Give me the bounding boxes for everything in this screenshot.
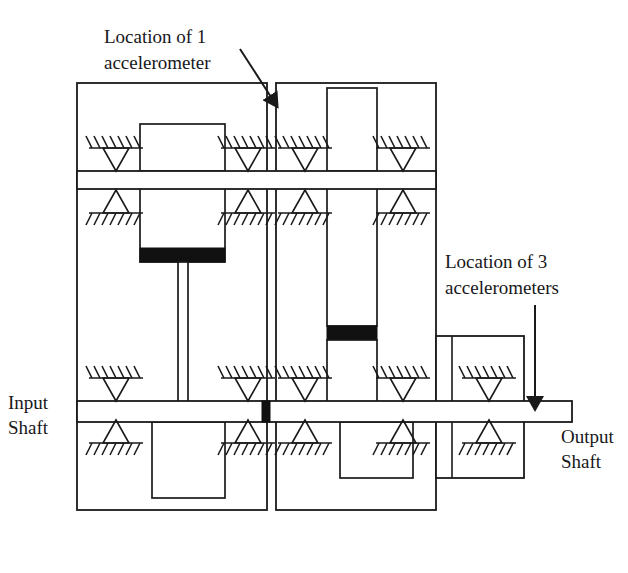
shaft-lower	[77, 401, 572, 422]
gear-right-upper	[327, 88, 377, 171]
shaft-upper-body	[77, 171, 436, 189]
input-shaft-label-line1: Input	[8, 392, 49, 413]
gear-mesh-band-right	[327, 326, 377, 340]
gear-right-lower	[340, 422, 413, 478]
gear-right-lower-upper	[327, 340, 377, 402]
accel-3-label-line1: Location of 3	[445, 251, 547, 272]
gear-left-lower	[152, 422, 225, 498]
output-shaft-label-line1: Output	[561, 426, 615, 447]
accel-1-label-line2: accelerometer	[104, 52, 211, 73]
gearbox-schematic-figure: Location of 1 accelerometer Location of …	[0, 0, 628, 573]
input-shaft-label-line2: Shaft	[8, 417, 49, 438]
gearbox-schematic-svg: Location of 1 accelerometer Location of …	[0, 0, 628, 573]
gear-mesh-band-left	[140, 248, 225, 262]
accel-3-label-line2: accelerometers	[445, 277, 559, 298]
gear-left-shaft-stub	[178, 262, 188, 402]
gear-right-middle	[327, 188, 377, 326]
shaft-coupling-mark	[262, 401, 270, 422]
shaft-upper	[77, 171, 436, 189]
shaft-lower-body	[77, 401, 572, 422]
output-shaft-label-line2: Shaft	[561, 451, 602, 472]
gear-left-upper	[140, 124, 225, 171]
accel-1-label-line1: Location of 1	[104, 26, 206, 47]
